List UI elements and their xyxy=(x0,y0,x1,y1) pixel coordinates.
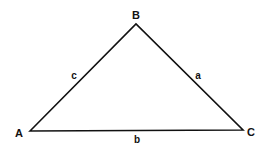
vertex-label-b: B xyxy=(132,9,140,21)
triangle-diagram: A B C a b c xyxy=(0,0,265,151)
triangle-abc xyxy=(30,24,243,131)
side-label-c: c xyxy=(71,70,77,81)
vertex-label-a: A xyxy=(15,127,23,139)
vertex-label-c: C xyxy=(247,126,255,138)
side-label-b: b xyxy=(134,134,140,145)
side-label-a: a xyxy=(195,70,201,81)
